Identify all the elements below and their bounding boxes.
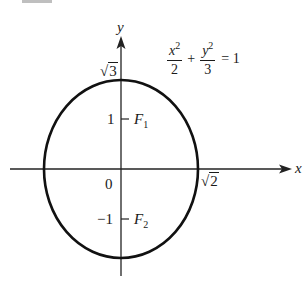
equation-term1: x2 2 [167,40,182,78]
y-tick-label-neg1: −1 [97,212,113,227]
ellipse-equation: x2 2 + y2 3 = 1 [165,40,240,78]
equation-term2: y2 3 [200,40,215,78]
y-tick-label-1: 1 [107,112,115,127]
ellipse-diagram [0,0,307,281]
equation-plus: + [187,51,195,67]
y-axis-label: y [117,20,124,35]
equation-rhs: = 1 [221,51,239,67]
sqrt3-label: √3 [100,64,118,79]
sqrt2-label: √2 [201,174,219,189]
focus1-label: F1 [134,112,148,130]
focus2-label: F2 [134,212,148,230]
x-axis-label: x [295,161,302,176]
origin-label: 0 [105,177,113,192]
